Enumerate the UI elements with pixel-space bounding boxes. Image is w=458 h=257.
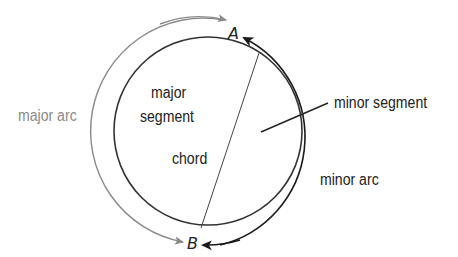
major-arc-label: major arc	[18, 107, 77, 125]
circle-diagram: A B major arc major segment chord minor …	[0, 0, 458, 257]
minor-arc-arrow	[220, 38, 305, 245]
chord-label: chord	[172, 150, 207, 168]
chord-line	[201, 53, 259, 228]
point-a-label: A	[228, 25, 239, 43]
point-b-label: B	[187, 235, 198, 253]
major-segment-label-line1: major	[151, 84, 186, 102]
minor-arc-label: minor arc	[320, 171, 379, 189]
circle	[114, 37, 302, 225]
minor-arc-arrow-bottom	[203, 240, 240, 245]
major-segment-label-line2: segment	[140, 108, 194, 126]
minor-segment-label: minor segment	[334, 94, 427, 112]
minor-segment-leader	[261, 103, 328, 132]
